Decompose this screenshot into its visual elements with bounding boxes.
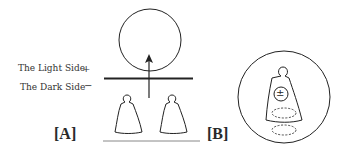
minus-sign: − — [84, 80, 92, 91]
dashed-ellipse-lower — [272, 125, 296, 135]
light-side-label: The Light Side — [18, 63, 85, 73]
diagram-graphics — [0, 0, 352, 159]
bag-icon-1 — [115, 95, 142, 134]
plus-minus-symbol: ± — [276, 87, 284, 98]
circle-a — [119, 9, 181, 71]
panel-b-label: [B] — [207, 125, 228, 143]
diagram-canvas: The Light Side + The Dark Side − [A] [B]… — [0, 0, 352, 159]
dashed-ellipse-inner — [272, 108, 296, 118]
plus-sign: + — [82, 63, 90, 74]
dark-side-label: The Dark Side — [20, 82, 85, 92]
panel-a-label: [A] — [54, 125, 76, 143]
bag-icon-2 — [160, 95, 187, 134]
